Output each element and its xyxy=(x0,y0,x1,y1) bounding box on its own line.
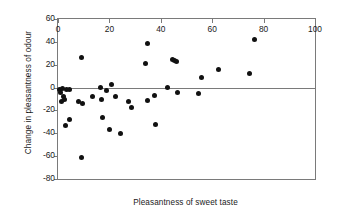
data-point xyxy=(63,123,68,128)
y-tick-label: -40 xyxy=(43,127,55,137)
x-tick-mark xyxy=(212,19,213,23)
y-tick-label: 20 xyxy=(46,59,55,69)
y-tick-label: -80 xyxy=(43,173,55,183)
x-tick-label: 100 xyxy=(308,24,322,34)
data-point xyxy=(109,82,114,87)
scatter-plot-figure: Change in pleasantness of odour -80-60-4… xyxy=(0,0,339,221)
data-point xyxy=(100,115,105,120)
data-point xyxy=(165,85,170,90)
y-tick-label: 0 xyxy=(50,82,55,92)
data-point xyxy=(175,90,180,95)
data-point xyxy=(247,71,252,76)
x-tick-label: 60 xyxy=(208,24,217,34)
x-axis-label: Pleasantness of sweet taste xyxy=(57,198,314,207)
data-point xyxy=(113,94,118,99)
data-point xyxy=(199,75,204,80)
data-point xyxy=(80,101,85,106)
x-tick-label: 40 xyxy=(156,24,165,34)
data-point xyxy=(126,99,131,104)
x-tick-mark xyxy=(109,19,110,23)
x-tick-mark xyxy=(58,19,59,23)
y-tick-label: 40 xyxy=(46,36,55,46)
y-tick-label: -60 xyxy=(43,150,55,160)
data-point xyxy=(118,131,123,136)
data-point xyxy=(62,97,67,102)
data-point xyxy=(153,122,158,127)
data-point xyxy=(104,88,109,93)
data-point xyxy=(196,91,201,96)
data-point xyxy=(145,98,150,103)
y-axis-label: Change in pleasantness of odour xyxy=(24,13,33,173)
zero-reference-line xyxy=(58,88,315,89)
plot-area: -80-60-40-200204060 020406080100 xyxy=(57,18,316,180)
data-point xyxy=(98,85,103,90)
data-point xyxy=(67,87,72,92)
data-point xyxy=(152,93,157,98)
x-tick-label: 0 xyxy=(56,24,61,34)
data-point xyxy=(107,127,112,132)
data-point xyxy=(216,67,221,72)
data-point xyxy=(79,55,84,60)
data-point xyxy=(252,37,257,42)
y-tick-label: -20 xyxy=(43,104,55,114)
data-point xyxy=(129,105,134,110)
data-point xyxy=(67,117,72,122)
data-point xyxy=(143,61,148,66)
y-tick-label: 60 xyxy=(46,13,55,23)
data-point xyxy=(90,94,95,99)
x-tick-mark xyxy=(161,19,162,23)
data-point xyxy=(145,41,150,46)
x-tick-mark xyxy=(264,19,265,23)
data-point xyxy=(174,59,179,64)
x-tick-label: 20 xyxy=(105,24,114,34)
x-tick-label: 80 xyxy=(259,24,268,34)
data-point xyxy=(99,97,104,102)
data-point xyxy=(79,155,84,160)
x-tick-mark xyxy=(315,19,316,23)
